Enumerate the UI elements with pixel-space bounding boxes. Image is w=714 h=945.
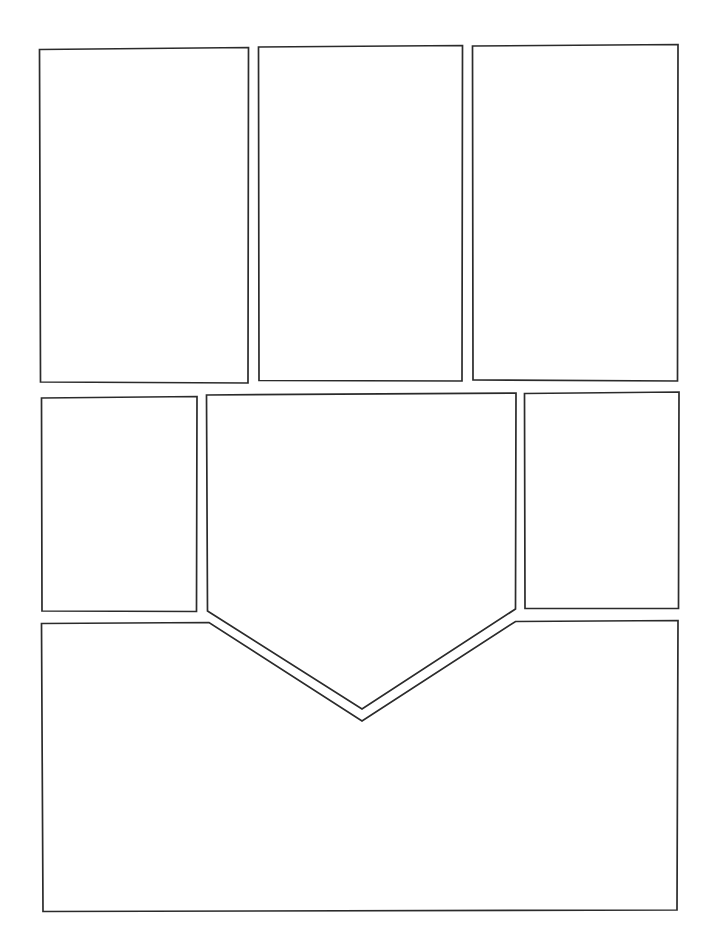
panel-top-center[interactable] [259, 46, 463, 382]
panel-top-right[interactable] [473, 45, 679, 382]
panel-middle-left[interactable] [42, 397, 198, 612]
panel-top-left[interactable] [40, 48, 249, 384]
panel-middle-right[interactable] [525, 392, 680, 609]
comic-page: Blank Comic Page Layout [0, 0, 714, 945]
comic-panel-grid [0, 0, 714, 945]
